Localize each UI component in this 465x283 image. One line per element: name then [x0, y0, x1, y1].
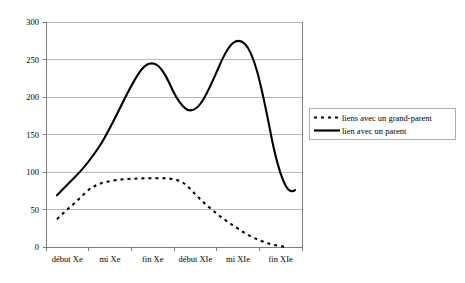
- ytick-label-50: 50: [31, 205, 40, 215]
- x-axis-labels: début Xe mi Xe fin Xe début XIe mi XIe f…: [52, 254, 293, 264]
- ytick-label-200: 200: [26, 92, 39, 102]
- xtick-label-mi-xe: mi Xe: [99, 254, 120, 264]
- line-chart: 300 250 200 150 100 50 0 début Xe mi Xe …: [0, 0, 465, 283]
- legend: liens avec un grand-parent lien avec un …: [309, 108, 455, 139]
- x-tickmarks: [46, 247, 302, 251]
- legend-label-grand-parent: liens avec un grand-parent: [342, 113, 433, 123]
- ytick-label-0: 0: [35, 242, 39, 252]
- y-axis-labels: 300 250 200 150 100 50 0: [26, 17, 39, 252]
- ytick-label-300: 300: [26, 17, 39, 27]
- xtick-label-debut-xie: début XIe: [178, 254, 212, 264]
- xtick-label-debut-xe: début Xe: [52, 254, 83, 264]
- chart-container: 300 250 200 150 100 50 0 début Xe mi Xe …: [0, 0, 465, 283]
- y-tickmarks: [43, 22, 47, 247]
- ytick-label-150: 150: [26, 130, 39, 140]
- ytick-label-100: 100: [26, 167, 39, 177]
- ytick-label-250: 250: [26, 55, 39, 65]
- xtick-label-fin-xe: fin Xe: [142, 254, 164, 264]
- xtick-label-fin-xie: fin XIe: [269, 254, 294, 264]
- xtick-label-mi-xie: mi XIe: [226, 254, 250, 264]
- legend-label-parent: lien avec un parent: [342, 126, 407, 136]
